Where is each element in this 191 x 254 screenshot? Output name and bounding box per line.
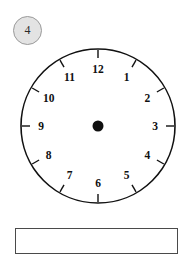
- clock-numeral-10: 10: [43, 92, 55, 104]
- clock-numeral-11: 11: [64, 71, 75, 83]
- clock-face: 121234567891011: [20, 48, 176, 204]
- clock-numeral-8: 8: [46, 149, 52, 161]
- clock-numeral-12: 12: [92, 63, 104, 75]
- clock-numeral-6: 6: [95, 177, 101, 189]
- clock-numeral-7: 7: [67, 169, 73, 181]
- clock-numeral-4: 4: [144, 149, 150, 161]
- clock-numeral-5: 5: [124, 169, 130, 181]
- answer-box[interactable]: [15, 228, 178, 254]
- clock-numeral-2: 2: [144, 92, 150, 104]
- exercise-number-badge: 4: [13, 16, 42, 45]
- clock-numeral-1: 1: [124, 71, 130, 83]
- clock-numeral-9: 9: [38, 120, 44, 132]
- clock-numeral-3: 3: [152, 120, 158, 132]
- clock-svg: 121234567891011: [20, 48, 176, 204]
- clock-center-hub: [93, 121, 104, 132]
